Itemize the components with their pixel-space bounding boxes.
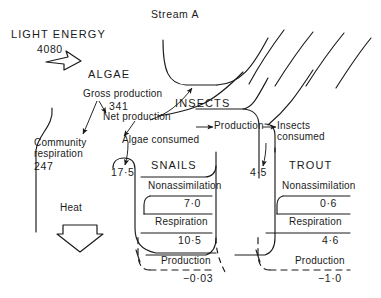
flow-strand-2 xyxy=(249,30,284,84)
algae-consumed-value: 17·5 xyxy=(111,167,134,178)
insects-label: INSECTS xyxy=(175,98,230,110)
algae-trough-right xyxy=(217,38,268,85)
trout-compartment-left xyxy=(235,148,275,255)
figure-title: Stream A xyxy=(151,9,199,20)
snails-production-dashed-hook xyxy=(138,236,150,270)
figure-canvas: Stream A LIGHT ENERGY 4080 ALGAE Gross p… xyxy=(0,0,381,298)
flow-strand-4 xyxy=(306,33,344,86)
snails-production-value: −0·03 xyxy=(183,273,213,284)
trout-respiration-value: 4·6 xyxy=(322,235,339,246)
arrow-insects-consumed-to-trout xyxy=(263,143,266,166)
trout-label: TROUT xyxy=(289,160,332,172)
trout-nonassimilation-value: 0·6 xyxy=(320,198,337,209)
snails-right-dashed-edge xyxy=(216,238,225,272)
gross-production-label: Gross production xyxy=(83,89,162,100)
algae-trough-left xyxy=(163,40,217,85)
trout-nonassimilation-label: Nonassimilation xyxy=(282,181,356,192)
trout-bar-hook xyxy=(277,196,283,214)
trout-inflow-channel xyxy=(265,124,275,152)
algae-label: ALGAE xyxy=(88,69,130,81)
snails-production-label: Production xyxy=(161,256,211,267)
light-energy-label: LIGHT ENERGY xyxy=(11,29,106,41)
community-respiration-value: 247 xyxy=(34,161,53,172)
flow-strand-5 xyxy=(336,38,371,88)
heat-label: Heat xyxy=(60,203,82,214)
insects-consumed-value: 4·5 xyxy=(250,167,267,178)
insects-production-label: Production xyxy=(214,121,264,132)
snails-bar-hook xyxy=(144,196,150,214)
snails-respiration-value: 10·5 xyxy=(178,235,201,246)
trout-production-value: −1·0 xyxy=(318,273,342,284)
arrow-gross-to-community xyxy=(83,101,97,134)
snails-nonassimilation-value: 7·0 xyxy=(184,198,201,209)
light-energy-value: 4080 xyxy=(37,44,63,55)
snails-label: SNAILS xyxy=(151,160,197,172)
snails-nonassimilation-label: Nonassimilation xyxy=(148,181,222,192)
insects-consumed-label: Insects consumed xyxy=(277,121,325,142)
snails-respiration-label: Respiration xyxy=(155,217,208,228)
flow-strand-to-trout-1 xyxy=(268,70,313,125)
community-respiration-label: Community respiration xyxy=(34,138,86,159)
hollow-arrow-down-icon xyxy=(57,225,103,252)
trout-production-label: Production xyxy=(295,256,345,267)
arrow-algae-consumed-to-snails xyxy=(125,143,128,165)
trout-respiration-label: Respiration xyxy=(289,217,342,228)
algae-consumed-label: Algae consumed xyxy=(122,135,199,146)
net-production-label: Net production xyxy=(103,112,171,123)
